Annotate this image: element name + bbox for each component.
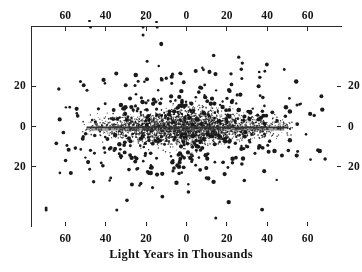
right-tick-label: 20 [348,161,360,173]
top-tick [186,27,187,31]
bottom-tick [146,222,147,226]
bottom-tick-label: 20 [140,233,152,245]
figure-container: 6040200204060 6040200204060 20020 20020 … [0,0,362,272]
left-tick [32,126,36,127]
bottom-tick-label: 40 [261,233,273,245]
top-tick [146,27,147,31]
top-tick-label: 60 [302,10,314,22]
top-tick-label: 60 [59,10,71,22]
left-tick-label: 20 [4,161,26,173]
bottom-tick [307,222,308,226]
top-tick-label: 40 [100,10,112,22]
bottom-tick-label: 60 [59,233,71,245]
bottom-tick-label: 20 [221,233,233,245]
plot-frame [31,26,342,227]
right-tick-label: 20 [348,81,360,93]
left-tick [32,86,36,87]
bottom-tick [226,222,227,226]
bottom-tick-label: 60 [302,233,314,245]
bottom-tick-label: 0 [184,233,190,245]
right-tick [337,126,341,127]
left-tick [32,166,36,167]
bottom-tick [186,222,187,226]
bottom-tick-label: 40 [100,233,112,245]
top-tick-label: 40 [261,10,273,22]
right-tick [337,166,341,167]
top-tick-label: 20 [221,10,233,22]
left-tick-label: 20 [4,81,26,93]
top-tick [105,27,106,31]
top-tick [307,27,308,31]
right-tick-label: 0 [348,121,354,133]
outlier-point [155,21,158,24]
outlier-point [88,20,91,23]
bottom-tick [105,222,106,226]
scatter-plot-canvas [32,27,343,228]
right-tick [337,86,341,87]
top-tick [65,27,66,31]
bottom-tick [267,222,268,226]
top-tick [267,27,268,31]
left-tick-label: 0 [4,121,26,133]
x-axis-title: Light Years in Thousands [0,247,362,262]
bottom-tick [65,222,66,226]
top-tick-label: 0 [184,10,190,22]
top-tick [226,27,227,31]
